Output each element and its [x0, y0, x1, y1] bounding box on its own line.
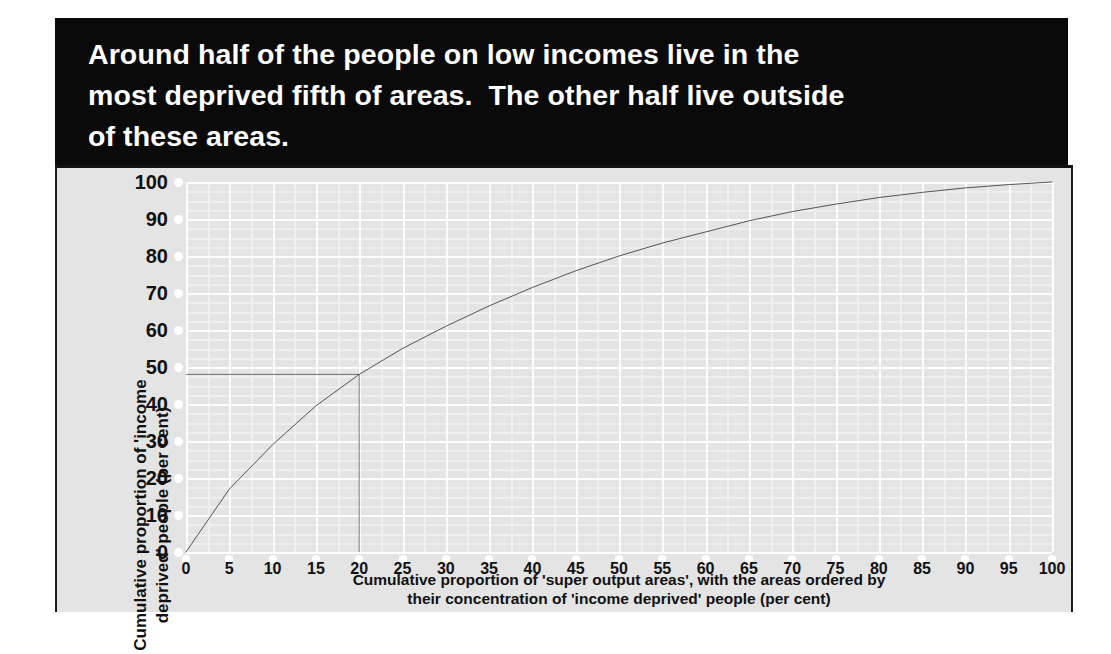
- y-axis-tick-dot: [174, 511, 183, 520]
- y-axis-tick-label: 10: [146, 504, 168, 527]
- y-axis-tick-label: 100: [135, 171, 168, 194]
- y-axis-tick-dot: [174, 474, 183, 483]
- title-line-2: most deprived fifth of areas. The other …: [88, 75, 1048, 116]
- y-axis-tick-dot: [174, 252, 183, 261]
- y-axis-tick-dot: [174, 178, 183, 187]
- y-axis-tick-dot: [174, 400, 183, 409]
- title-line-1: Around half of the people on low incomes…: [88, 34, 1048, 75]
- y-axis-tick-label: 90: [146, 208, 168, 231]
- y-axis-tick-label: 80: [146, 245, 168, 268]
- page-title: Around half of the people on low incomes…: [88, 34, 1048, 157]
- y-axis-tick-dot: [174, 363, 183, 372]
- y-axis-tick-dot: [174, 326, 183, 335]
- y-axis-tick-dot: [174, 548, 183, 557]
- y-axis-tick-label: 20: [146, 467, 168, 490]
- x-axis-title-line-1: Cumulative proportion of 'super output a…: [186, 570, 1052, 589]
- curve-layer: [186, 182, 1052, 552]
- gridline-vertical: [1052, 182, 1054, 552]
- y-axis-tick-label: 70: [146, 282, 168, 305]
- plot-area: 0510152025303540455055606570758085909510…: [186, 182, 1052, 552]
- y-axis-tick-label: 60: [146, 319, 168, 342]
- gridline-horizontal: [186, 552, 1052, 554]
- y-axis-tick-dot: [174, 215, 183, 224]
- x-axis-title: Cumulative proportion of 'super output a…: [186, 570, 1052, 608]
- y-axis-tick-label: 50: [146, 356, 168, 379]
- y-axis-tick-label: 30: [146, 430, 168, 453]
- x-axis-title-line-2: their concentration of 'income deprived'…: [186, 589, 1052, 608]
- y-axis-tick-label: 40: [146, 393, 168, 416]
- title-banner: Around half of the people on low incomes…: [55, 18, 1068, 165]
- y-axis-tick-dot: [174, 437, 183, 446]
- chart-panel: Cumulative proportion of 'income deprive…: [55, 165, 1073, 612]
- y-axis-tick-label: 0: [157, 541, 168, 564]
- title-line-3: of these areas.: [88, 116, 1048, 157]
- lorenz-curve: [186, 182, 1052, 552]
- y-axis-title: Cumulative proportion of 'income deprive…: [123, 330, 181, 654]
- y-axis-tick-dot: [174, 289, 183, 298]
